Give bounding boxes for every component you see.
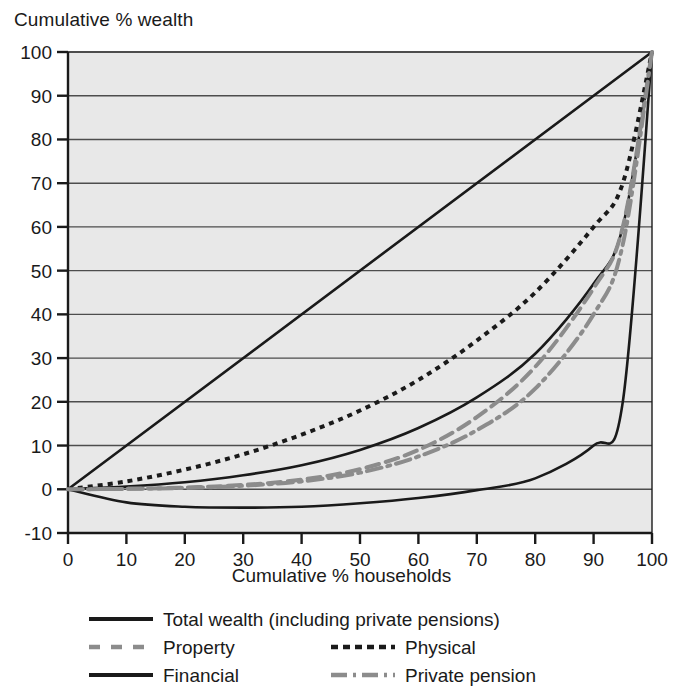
y-tick-label: 40: [31, 304, 52, 325]
y-tick-label: -10: [25, 523, 52, 544]
legend-label-physical: Physical: [405, 638, 476, 657]
y-tick-label: 90: [31, 86, 52, 107]
legend-item-private-pension: Private pension: [330, 662, 536, 688]
y-tick-label: 50: [31, 261, 52, 282]
plot-background: [68, 52, 652, 533]
y-tick-label: 60: [31, 217, 52, 238]
legend-label-financial: Financial: [163, 666, 239, 685]
legend-label-total-wealth: Total wealth (including private pensions…: [163, 610, 500, 629]
legend-swatch-financial: [88, 668, 154, 682]
legend-item-physical: Physical: [330, 634, 476, 660]
legend-swatch-total-wealth: [88, 612, 154, 626]
plot-svg: -100102030405060708090100010203040506070…: [0, 0, 683, 600]
y-tick-label: 70: [31, 173, 52, 194]
lorenz-curve-chart: Cumulative % wealth -1001020304050607080…: [0, 0, 683, 698]
y-tick-label: 100: [20, 42, 52, 63]
legend-item-property: Property: [88, 634, 235, 660]
y-tick-label: 30: [31, 348, 52, 369]
y-tick-label: 20: [31, 392, 52, 413]
legend-item-financial: Financial: [88, 662, 239, 688]
legend-swatch-property: [88, 640, 154, 654]
chart-legend: Total wealth (including private pensions…: [0, 604, 683, 698]
legend-swatch-physical: [330, 640, 396, 654]
y-tick-label: 0: [41, 479, 52, 500]
legend-label-property: Property: [163, 638, 235, 657]
plot-area-container: -100102030405060708090100010203040506070…: [0, 0, 683, 600]
legend-swatch-private-pension: [330, 668, 396, 682]
y-tick-label: 10: [31, 436, 52, 457]
y-tick-label: 80: [31, 129, 52, 150]
legend-label-private-pension: Private pension: [405, 666, 536, 685]
x-axis-title: Cumulative % households: [0, 565, 683, 587]
legend-item-total-wealth: Total wealth (including private pensions…: [88, 606, 500, 632]
